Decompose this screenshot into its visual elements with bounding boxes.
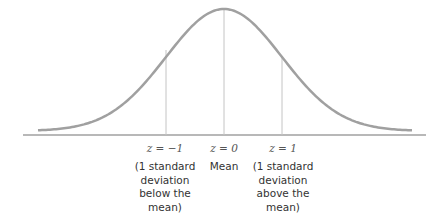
normal-curve-diagram [0,0,445,216]
caption-line: mean) [125,201,205,215]
caption-line: below the [125,187,205,201]
z-label-plus1: z = 1 [243,142,323,154]
caption-line: above the [243,187,323,201]
caption-line: deviation [125,174,205,188]
caption-above-mean: (1 standard deviation above the mean) [243,160,323,214]
caption-line: deviation [243,174,323,188]
caption-line: mean) [243,201,323,215]
caption-line: (1 standard [243,160,323,174]
bell-curve [38,9,412,130]
